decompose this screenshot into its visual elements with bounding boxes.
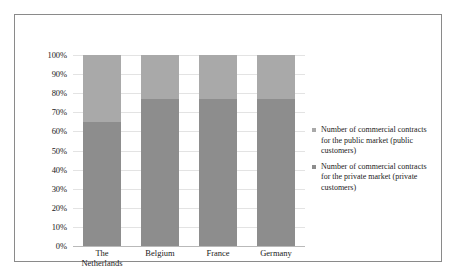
bar-segment[interactable] bbox=[141, 99, 179, 246]
y-tick-label: 90% bbox=[52, 70, 67, 79]
y-tick-label: 30% bbox=[52, 184, 67, 193]
y-tick-label: 40% bbox=[52, 165, 67, 174]
bar-segment[interactable] bbox=[83, 122, 121, 246]
legend-label-line: for the public market (public bbox=[321, 136, 452, 147]
chart-legend: Number of commercial contractsfor the pu… bbox=[312, 125, 452, 198]
chart-frame-border: 0%10%20%30%40%50%60%70%80%90%100% TheNet… bbox=[14, 14, 442, 262]
legend-swatch-icon bbox=[312, 128, 316, 132]
x-tick-label: TheNetherlands bbox=[70, 249, 134, 269]
legend-entry[interactable]: Number of commercial contractsfor the pr… bbox=[312, 162, 452, 194]
legend-label-line: for the private market (private bbox=[321, 172, 452, 183]
bar-segment[interactable] bbox=[141, 55, 179, 99]
y-tick-label: 0% bbox=[56, 242, 67, 251]
legend-swatch-icon bbox=[312, 165, 316, 169]
y-tick-label: 100% bbox=[48, 51, 67, 60]
bar-segment[interactable] bbox=[83, 55, 121, 122]
y-tick-label: 60% bbox=[52, 127, 67, 136]
bar-stack[interactable] bbox=[257, 55, 295, 246]
x-tick-label: Belgium bbox=[128, 249, 192, 259]
y-tick-label: 50% bbox=[52, 146, 67, 155]
y-tick-label: 10% bbox=[52, 223, 67, 232]
bar-segment[interactable] bbox=[257, 99, 295, 246]
bar-segment[interactable] bbox=[199, 99, 237, 246]
y-tick-label: 80% bbox=[52, 89, 67, 98]
chart-figure: 0%10%20%30%40%50%60%70%80%90%100% TheNet… bbox=[0, 0, 458, 277]
legend-entry[interactable]: Number of commercial contractsfor the pu… bbox=[312, 125, 452, 157]
gridline-0% bbox=[73, 246, 305, 247]
legend-label-line: Number of commercial contracts bbox=[321, 125, 452, 136]
plot-area bbox=[73, 55, 305, 246]
bar-segment[interactable] bbox=[199, 55, 237, 99]
legend-label-line: customers) bbox=[321, 146, 452, 157]
x-axis-category-labels: TheNetherlandsBelgiumFranceGermany bbox=[73, 249, 305, 277]
x-tick-label-line: Netherlands bbox=[70, 259, 134, 269]
x-tick-label-line: Belgium bbox=[128, 249, 192, 259]
x-tick-label: Germany bbox=[244, 249, 308, 259]
x-tick-label: France bbox=[186, 249, 250, 259]
bar-stack[interactable] bbox=[199, 55, 237, 246]
x-tick-label-line: Germany bbox=[244, 249, 308, 259]
y-axis-tick-labels: 0%10%20%30%40%50%60%70%80%90%100% bbox=[29, 55, 71, 246]
bar-stack[interactable] bbox=[141, 55, 179, 246]
x-tick-label-line: France bbox=[186, 249, 250, 259]
y-tick-label: 20% bbox=[52, 204, 67, 213]
legend-label-line: Number of commercial contracts bbox=[321, 162, 452, 173]
y-tick-label: 70% bbox=[52, 108, 67, 117]
bar-segment[interactable] bbox=[257, 55, 295, 99]
bar-stack[interactable] bbox=[83, 55, 121, 246]
legend-label-line: customers) bbox=[321, 183, 452, 194]
